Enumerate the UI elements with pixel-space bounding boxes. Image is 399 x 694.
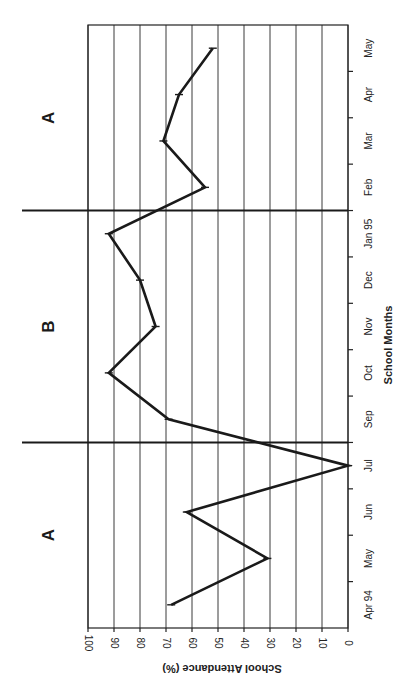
phase-label: A (39, 529, 58, 541)
y-tick-label: 80 (135, 637, 146, 649)
month-label: May (363, 39, 374, 58)
gridlines (88, 25, 348, 632)
month-label: May (363, 549, 374, 568)
month-label: Jan 95 (363, 218, 374, 248)
y-tick-label: 30 (265, 637, 276, 649)
y-tick-label: 90 (109, 637, 120, 649)
y-tick-label: 100 (83, 635, 94, 652)
phase-change-lines (22, 211, 348, 443)
month-label: Apr 94 (363, 590, 374, 620)
month-ticks (348, 71, 353, 581)
y-tick-labels: 0102030405060708090100 (83, 635, 354, 652)
month-label: Oct (363, 365, 374, 381)
month-label: Sep (363, 410, 374, 428)
month-label: Nov (363, 318, 374, 336)
month-labels: Apr 94MayJunJulSepOctNovDecJan 95FebMarA… (363, 39, 374, 620)
phase-label: A (39, 112, 58, 124)
month-label: Apr (363, 86, 374, 102)
month-label: Feb (363, 178, 374, 196)
month-label: Mar (363, 132, 374, 150)
month-label: Dec (363, 271, 374, 289)
month-label: Jul (363, 459, 374, 472)
attendance-line (109, 48, 348, 605)
y-tick-label: 40 (239, 637, 250, 649)
y-axis-title: School Attendance (%) (162, 663, 282, 675)
phase-label: B (39, 320, 58, 332)
y-tick-label: 60 (187, 637, 198, 649)
y-tick-label: 0 (343, 640, 354, 646)
month-label: Jun (363, 504, 374, 520)
y-tick-label: 20 (291, 637, 302, 649)
phase-labels: ABA (39, 112, 58, 542)
attendance-chart: 0102030405060708090100 Apr 94MayJunJulSe… (0, 0, 399, 694)
y-tick-label: 10 (317, 637, 328, 649)
x-axis-title: School Months (382, 306, 394, 385)
y-tick-label: 70 (161, 637, 172, 649)
y-tick-label: 50 (213, 637, 224, 649)
attendance-series (105, 48, 352, 605)
